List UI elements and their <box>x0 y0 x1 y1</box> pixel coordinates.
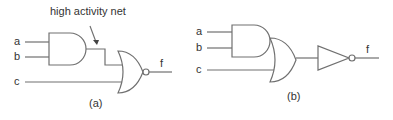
annotation-arrow <box>90 26 96 42</box>
panel-b: a b c f (b) <box>196 25 379 102</box>
output-label-f-a: f <box>160 57 164 69</box>
input-label-b: b <box>14 50 20 62</box>
annotation-high-activity-net: high activity net <box>50 5 126 17</box>
caption-b: (b) <box>287 90 300 102</box>
input-label-a: a <box>14 35 21 47</box>
and-gate-b <box>232 25 270 57</box>
inverter-b <box>318 46 349 70</box>
inversion-bubble-b <box>349 55 355 61</box>
circuit-diagram: high activity net a b c f (a) a b c <box>0 0 393 120</box>
and-gate-a <box>49 33 86 65</box>
or-gate-b <box>270 38 296 82</box>
panel-a: high activity net a b c f (a) <box>14 5 172 109</box>
nor-gate-a <box>118 51 143 93</box>
input-label-a-b: a <box>196 25 203 37</box>
input-label-b-b: b <box>196 41 202 53</box>
output-label-f-b: f <box>366 43 370 55</box>
caption-a: (a) <box>89 97 102 109</box>
input-label-c: c <box>14 75 20 87</box>
input-label-c-b: c <box>196 63 202 75</box>
inversion-bubble-a <box>143 69 149 75</box>
arrow-head-icon <box>93 40 99 45</box>
